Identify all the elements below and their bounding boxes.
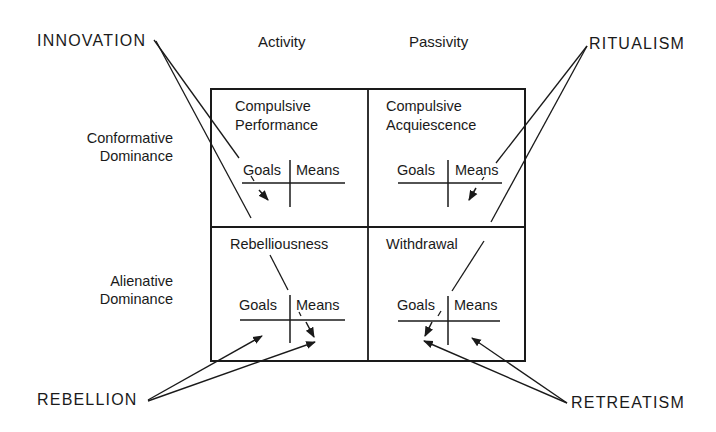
label-ritualism: RITUALISM bbox=[589, 35, 685, 53]
goals-label: Goals bbox=[397, 297, 435, 313]
row-heading-line2: Dominance bbox=[56, 290, 173, 308]
label-innovation: INNOVATION bbox=[37, 32, 146, 50]
row-heading-line1: Alienative bbox=[56, 272, 173, 290]
means-label: Means bbox=[296, 297, 340, 313]
cell-compulsive-acquiescence-title: Compulsive Acquiescence bbox=[386, 97, 476, 135]
row-heading-line2: Dominance bbox=[56, 147, 173, 165]
column-heading-activity: Activity bbox=[258, 33, 306, 50]
cell-compulsive-performance-title: Compulsive Performance bbox=[235, 97, 318, 135]
means-label: Means bbox=[454, 297, 498, 313]
label-retreatism: RETREATISM bbox=[571, 394, 685, 412]
cell-title-line2: Acquiescence bbox=[386, 116, 476, 135]
cell-withdrawal-title: Withdrawal bbox=[386, 235, 458, 254]
cell-rebelliousness-title: Rebelliousness bbox=[230, 235, 328, 254]
row-heading-line1: Conformative bbox=[56, 129, 173, 147]
diagram-lines bbox=[0, 0, 716, 432]
means-label: Means bbox=[455, 162, 499, 178]
row-heading-alienative: Alienative Dominance bbox=[56, 272, 173, 308]
label-rebellion: REBELLION bbox=[37, 391, 138, 409]
column-heading-passivity: Passivity bbox=[409, 33, 468, 50]
goals-label: Goals bbox=[397, 162, 435, 178]
goals-label: Goals bbox=[243, 162, 281, 178]
goals-label: Goals bbox=[239, 297, 277, 313]
means-label: Means bbox=[296, 162, 340, 178]
cell-title-line1: Compulsive bbox=[235, 97, 318, 116]
row-heading-conformative: Conformative Dominance bbox=[56, 129, 173, 165]
cell-title-line1: Compulsive bbox=[386, 97, 476, 116]
cell-title-line2: Performance bbox=[235, 116, 318, 135]
